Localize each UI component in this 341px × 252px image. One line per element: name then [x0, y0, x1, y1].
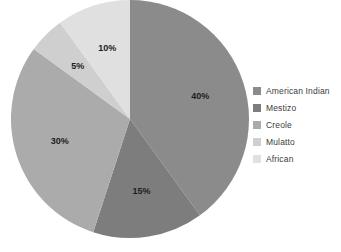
legend-swatch-icon: [253, 121, 261, 129]
legend-swatch-icon: [253, 104, 261, 112]
legend-item-label: Mestizo: [266, 103, 296, 113]
pie-slice-label: 5%: [71, 61, 84, 71]
pie-slice-label: 15%: [132, 186, 150, 196]
pie-slices-group: [11, 0, 249, 238]
legend-item-label: Creole: [266, 120, 292, 130]
legend-item-label: African: [266, 154, 294, 164]
legend-swatch-icon: [253, 155, 261, 163]
pie-svg: 40%15%30%5%10%: [0, 0, 260, 252]
pie-slice-label: 10%: [98, 43, 116, 53]
legend-item[interactable]: Mulatto: [253, 133, 341, 150]
pie-chart: 40%15%30%5%10% American IndianMestizoCre…: [0, 0, 341, 252]
legend-item-label: American Indian: [266, 86, 330, 96]
legend-swatch-icon: [253, 138, 261, 146]
legend-item-label: Mulatto: [266, 137, 295, 147]
legend-item[interactable]: African: [253, 150, 341, 167]
legend-item[interactable]: Mestizo: [253, 99, 341, 116]
pie-plot-area: 40%15%30%5%10%: [0, 0, 260, 252]
pie-slice-label: 40%: [191, 91, 209, 101]
legend-item[interactable]: American Indian: [253, 82, 341, 99]
legend: American IndianMestizoCreoleMulattoAfric…: [253, 82, 341, 167]
legend-item[interactable]: Creole: [253, 116, 341, 133]
pie-slice-label: 30%: [51, 136, 69, 146]
legend-swatch-icon: [253, 87, 261, 95]
